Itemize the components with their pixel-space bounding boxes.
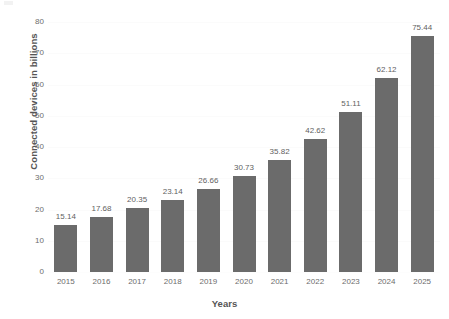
bar bbox=[126, 208, 149, 272]
y-tick-label: 30 bbox=[4, 174, 44, 182]
bar-value-label: 42.62 bbox=[293, 127, 337, 135]
bar-value-label: 26.66 bbox=[186, 177, 230, 185]
bar bbox=[339, 112, 362, 272]
y-axis-ticks: 01020304050607080 bbox=[0, 0, 44, 319]
y-tick-label: 80 bbox=[4, 18, 44, 26]
bar-value-label: 62.12 bbox=[365, 66, 409, 74]
bar bbox=[197, 189, 220, 272]
plot-area: 15.1417.6820.3523.1426.6630.7335.8242.62… bbox=[48, 22, 440, 272]
y-tick-label: 0 bbox=[4, 268, 44, 276]
bar-value-label: 75.44 bbox=[400, 24, 444, 32]
bar bbox=[268, 160, 291, 272]
gridline bbox=[48, 22, 440, 23]
bar-value-label: 51.11 bbox=[329, 100, 373, 108]
bar bbox=[90, 217, 113, 272]
bar-value-label: 17.68 bbox=[79, 205, 123, 213]
x-axis-baseline bbox=[48, 272, 440, 273]
chart-screenshot: Connected devices in billions 0102030405… bbox=[0, 0, 449, 319]
y-tick-label: 10 bbox=[4, 237, 44, 245]
bar bbox=[54, 225, 77, 272]
x-axis-title: Years bbox=[0, 298, 449, 309]
y-tick-label: 40 bbox=[4, 143, 44, 151]
y-tick-label: 20 bbox=[4, 206, 44, 214]
y-tick-label: 50 bbox=[4, 112, 44, 120]
bar bbox=[304, 139, 327, 272]
y-tick-label: 60 bbox=[4, 81, 44, 89]
bar bbox=[161, 200, 184, 272]
bar-value-label: 23.14 bbox=[151, 188, 195, 196]
bar bbox=[375, 78, 398, 272]
bar-value-label: 35.82 bbox=[258, 148, 302, 156]
bar-value-label: 20.35 bbox=[115, 196, 159, 204]
bar-value-label: 30.73 bbox=[222, 164, 266, 172]
y-tick-label: 70 bbox=[4, 49, 44, 57]
x-tick-label: 2025 bbox=[400, 277, 444, 286]
bar bbox=[411, 36, 434, 272]
bar bbox=[233, 176, 256, 272]
gridline bbox=[48, 53, 440, 54]
bar-value-label: 15.14 bbox=[44, 213, 88, 221]
